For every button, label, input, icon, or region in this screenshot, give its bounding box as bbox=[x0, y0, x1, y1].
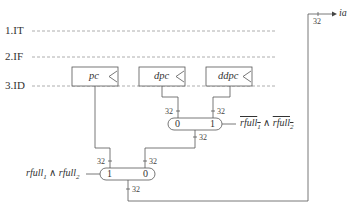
output-width: 32 bbox=[313, 18, 321, 26]
mux-bottom-input-1: 1 bbox=[107, 169, 112, 179]
arrow-head-icon bbox=[332, 12, 337, 17]
stage-label-it: 1.IT bbox=[5, 25, 24, 36]
mux-bottom-input-0: 0 bbox=[143, 169, 148, 179]
mux-top-width-left: 32 bbox=[165, 108, 173, 116]
stage-label-id: 3.ID bbox=[5, 80, 25, 91]
mux-bottom-width-right: 32 bbox=[149, 158, 157, 166]
register-pc-label: pc bbox=[89, 71, 99, 82]
mux-top-width-out: 32 bbox=[199, 134, 207, 142]
mux-top-width-right: 32 bbox=[217, 108, 225, 116]
mux-top-input-1: 1 bbox=[210, 119, 215, 129]
mux-top-select-expr: rfull1 ∧ rfull2 bbox=[240, 118, 293, 131]
mux-bottom-width-left: 32 bbox=[97, 158, 105, 166]
register-ddpc-label: ddpc bbox=[218, 71, 238, 82]
mux-bottom-width-out: 32 bbox=[132, 186, 140, 194]
mux-top-input-0: 0 bbox=[175, 119, 180, 129]
register-dpc-label: dpc bbox=[154, 71, 169, 82]
mux-bottom-select-expr: rfull1 ∧ rfull2 bbox=[26, 168, 79, 181]
output-label-ia: ia bbox=[339, 8, 347, 18]
stage-label-if: 2.IF bbox=[5, 51, 23, 62]
